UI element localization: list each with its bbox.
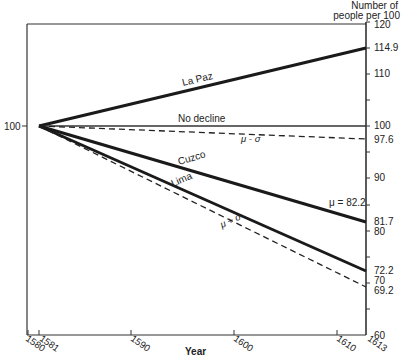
label-lima: Lima bbox=[169, 170, 194, 189]
left-100-label: 100 bbox=[4, 121, 21, 132]
svg-text:100: 100 bbox=[374, 120, 391, 131]
x-axis-ticks bbox=[28, 330, 337, 335]
svg-text:1600: 1600 bbox=[232, 333, 256, 354]
y-axis-ticks bbox=[22, 22, 370, 309]
svg-text:114.9: 114.9 bbox=[374, 42, 399, 53]
svg-text:1610: 1610 bbox=[335, 333, 359, 354]
svg-text:97.6: 97.6 bbox=[374, 134, 394, 145]
series-lines bbox=[39, 48, 366, 287]
line-cuzco bbox=[39, 126, 366, 222]
x-tick-labels: 1580 1581 1590 1600 1610 1613 bbox=[24, 333, 390, 354]
label-mu-value: μ = 82.2 bbox=[329, 197, 366, 208]
svg-text:1590: 1590 bbox=[129, 333, 153, 354]
line-mu-minus-sigma bbox=[39, 126, 366, 139]
svg-text:1613: 1613 bbox=[366, 333, 390, 354]
svg-text:110: 110 bbox=[374, 68, 390, 79]
label-no-decline: No decline bbox=[178, 113, 226, 124]
svg-text:120: 120 bbox=[374, 19, 391, 30]
svg-text:69.2: 69.2 bbox=[374, 285, 394, 296]
label-mu-minus-sigma: μ - σ bbox=[240, 133, 262, 144]
population-decline-chart: Number of people per 100 120 114.9 110 1… bbox=[0, 0, 403, 362]
svg-text:80: 80 bbox=[374, 226, 386, 237]
label-mu-plus-sigma: μ + σ bbox=[217, 210, 243, 230]
y-tick-labels: 120 114.9 110 100 97.6 90 81.7 80 72.2 7… bbox=[374, 19, 399, 341]
label-cuzco: Cuzco bbox=[176, 148, 207, 167]
plot-frame bbox=[27, 22, 366, 335]
svg-text:90: 90 bbox=[374, 172, 386, 183]
x-axis-title: Year bbox=[185, 346, 206, 357]
